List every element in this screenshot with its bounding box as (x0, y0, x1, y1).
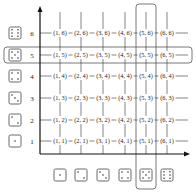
outcome-label: (5, 4) (139, 72, 153, 80)
outcome-label: (1, 2) (53, 116, 67, 124)
x-axis-arrow-icon (184, 152, 190, 157)
y-axis-die-icon-3 (9, 92, 21, 104)
outcome-label: (2, 6) (74, 29, 88, 37)
y-axis-die-icon-5 (9, 49, 21, 61)
y-axis-die-icon-4 (9, 70, 21, 82)
outcome-label: (2, 2) (74, 116, 88, 124)
row-number: 4 (30, 73, 34, 81)
outcome-label: (1, 5) (53, 51, 67, 59)
y-axis-arrow-icon (38, 6, 43, 12)
row-number: 6 (30, 30, 34, 38)
x-axis-die-icon-1 (54, 169, 66, 181)
outcome-label: (6, 6) (160, 29, 174, 37)
outcome-label: (6, 4) (160, 72, 174, 80)
outcome-label: (1, 3) (53, 94, 67, 102)
outcome-label: (2, 1) (74, 137, 88, 145)
outcome-label: (1, 1) (53, 137, 67, 145)
x-axis-die-icon-3 (97, 169, 109, 181)
outcome-label: (6, 1) (160, 137, 174, 145)
outcome-label: (3, 1) (96, 137, 110, 145)
outcome-label: (4, 4) (118, 72, 132, 80)
outcome-label: (4, 3) (118, 94, 132, 102)
outcome-label: (3, 3) (96, 94, 110, 102)
outcome-label: (3, 4) (96, 72, 110, 80)
row-number: 2 (30, 117, 34, 125)
outcome-label: (6, 2) (160, 116, 174, 124)
y-axis-die-icon-6 (9, 27, 21, 39)
y-axis-die-icon-2 (9, 114, 21, 126)
row-number: 3 (30, 95, 34, 103)
outcome-label: (4, 5) (118, 51, 132, 59)
outcome-label: (5, 3) (139, 94, 153, 102)
row-number: 5 (30, 52, 34, 60)
outcome-label: (4, 1) (118, 137, 132, 145)
dice-outcome-grid: (1, 6)(2, 6)(3, 6)(4, 6)(5, 6)(6, 6)6(1,… (0, 0, 196, 195)
outcome-label: (4, 2) (118, 116, 132, 124)
outcome-label: (5, 2) (139, 116, 153, 124)
outcome-label: (6, 5) (160, 51, 174, 59)
x-axis-die-icon-6 (161, 169, 173, 181)
x-axis-die-icon-2 (75, 169, 87, 181)
outcome-label: (5, 6) (139, 29, 153, 37)
row-number: 1 (30, 138, 34, 146)
outcome-label: (2, 3) (74, 94, 88, 102)
outcome-label: (6, 3) (160, 94, 174, 102)
outcome-label: (2, 5) (74, 51, 88, 59)
outcome-label: (5, 5) (139, 51, 153, 59)
outcome-label: (3, 6) (96, 29, 110, 37)
outcome-label: (2, 4) (74, 72, 88, 80)
outcome-label: (1, 4) (53, 72, 67, 80)
outcome-label: (1, 6) (53, 29, 67, 37)
outcome-label: (5, 1) (139, 137, 153, 145)
outcome-label: (3, 2) (96, 116, 110, 124)
outcome-label: (3, 5) (96, 51, 110, 59)
x-axis-die-icon-5 (140, 169, 152, 181)
y-axis-die-icon-1 (9, 135, 21, 147)
outcome-label: (4, 6) (118, 29, 132, 37)
x-axis-die-icon-4 (119, 169, 131, 181)
